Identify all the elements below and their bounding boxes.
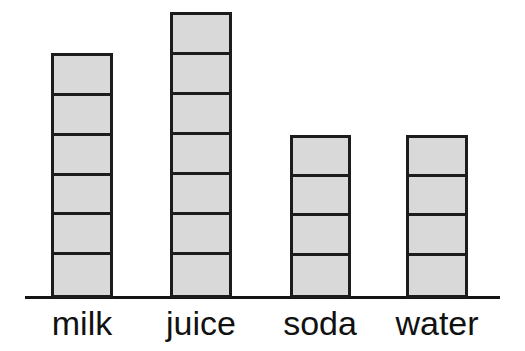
bar-soda (290, 135, 351, 298)
bar-segment (54, 215, 110, 255)
category-label-juice: juice (157, 303, 245, 343)
bar-segment (409, 138, 465, 177)
bar-milk (51, 53, 113, 298)
bar-segment (54, 176, 110, 216)
bar-segment (293, 256, 348, 295)
category-label-soda: soda (276, 303, 364, 343)
bar-segment (54, 255, 110, 295)
bar-segment (173, 15, 229, 55)
bar-segment (173, 135, 229, 175)
bar-segment (293, 216, 348, 255)
bar-segment (54, 96, 110, 136)
bar-water (406, 135, 468, 298)
bar-segment (173, 215, 229, 255)
bar-juice (170, 12, 232, 298)
plot-area: milkjuicesodawater (0, 0, 525, 351)
bar-chart: milkjuicesodawater (0, 0, 525, 351)
bar-segment (409, 216, 465, 255)
bar-segment (173, 175, 229, 215)
bar-segment (173, 55, 229, 95)
bar-segment (409, 256, 465, 295)
bar-segment (54, 56, 110, 96)
bar-segment (293, 138, 348, 177)
bar-segment (409, 177, 465, 216)
bar-segment (173, 95, 229, 135)
bar-segment (293, 177, 348, 216)
bar-segment (173, 255, 229, 295)
category-label-water: water (386, 303, 488, 343)
bar-segment (54, 136, 110, 176)
category-label-milk: milk (40, 303, 124, 343)
